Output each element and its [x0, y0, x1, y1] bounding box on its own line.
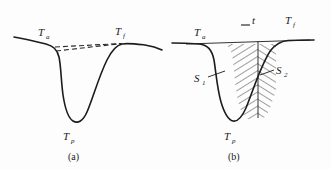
figure-container: T a T f T p (a)	[0, 0, 331, 169]
panel-a-label-onset-sub: a	[46, 33, 50, 41]
panel-a-caption: (a)	[68, 151, 79, 163]
panel-b-label-peak: T p	[224, 130, 236, 145]
panel-a: T a T f T p (a)	[14, 25, 162, 163]
panel-b-label-area-s1-base: S	[194, 72, 200, 84]
panel-b-label-area-s2-base: S	[276, 64, 282, 76]
panel-a-label-peak-sub: p	[70, 137, 75, 145]
panel-a-label-final: T f	[115, 25, 126, 40]
panel-b-label-area-s1: S 1	[194, 71, 225, 87]
panel-a-label-final-base: T	[115, 25, 122, 37]
panel-b-label-final-sub: f	[293, 21, 296, 29]
dsc-thermogram-figure: T a T f T p (a)	[0, 0, 331, 169]
panel-a-dashed-baseline-upper	[55, 44, 122, 48]
panel-b-label-onset-sub: a	[202, 33, 206, 41]
panel-b-label-time: t	[252, 14, 256, 26]
panel-b-label-peak-base: T	[224, 130, 231, 142]
panel-b-label-onset-base: T	[194, 26, 201, 38]
panel-b-label-peak-sub: p	[231, 137, 236, 145]
panel-b-label-onset: T a	[194, 26, 206, 41]
panel-a-dashed-baseline-lower	[56, 44, 122, 52]
panel-b-label-area-s2-sub: 2	[284, 71, 288, 79]
panel-b-label-area-s1-sub: 1	[202, 79, 206, 87]
panel-b: t T a T f S 1 S 2	[166, 14, 314, 163]
panel-b-area-s2-hatching	[166, 30, 276, 130]
panel-a-label-onset-base: T	[38, 26, 45, 38]
panel-a-label-onset: T a	[38, 26, 50, 41]
panel-b-label-final: T f	[285, 14, 296, 29]
panel-a-label-peak-base: T	[63, 130, 70, 142]
panel-a-curve	[14, 37, 162, 122]
panel-a-label-peak: T p	[63, 130, 75, 145]
panel-b-label-final-base: T	[285, 14, 292, 26]
panel-a-label-final-sub: f	[123, 32, 126, 40]
panel-b-caption: (b)	[228, 151, 240, 163]
